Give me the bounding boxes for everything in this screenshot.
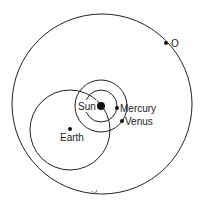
mercury-dot xyxy=(115,106,119,110)
sun-label: Sun xyxy=(78,101,96,112)
o-label: O xyxy=(171,38,179,49)
orbital-diagram: Sun Mercury Venus Earth O xyxy=(0,0,205,205)
o-dot xyxy=(164,41,168,45)
earth-label: Earth xyxy=(60,132,84,143)
venus-dot xyxy=(120,119,124,123)
mercury-label: Mercury xyxy=(120,103,156,114)
earth-dot xyxy=(68,127,72,131)
venus-label: Venus xyxy=(125,116,153,127)
sun-dot xyxy=(97,102,105,110)
